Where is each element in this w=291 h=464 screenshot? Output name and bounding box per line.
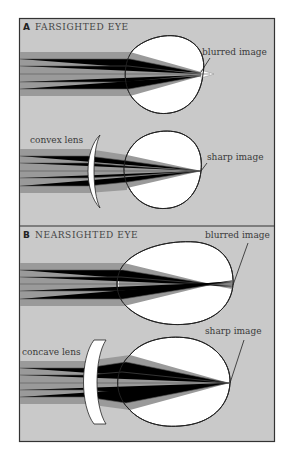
concave-lens-label: concave lens (22, 347, 81, 357)
sharp-image-label: sharp image (207, 152, 264, 162)
convex-lens-label: convex lens (30, 135, 84, 145)
panel-b-title: NEARSIGHTED EYE (35, 230, 138, 240)
panel-a-title: FARSIGHTED EYE (35, 22, 129, 32)
sharp-image-label: sharp image (205, 326, 262, 336)
blurred-image-label: blurred image (205, 230, 270, 240)
panel-a-letter: A (23, 22, 30, 32)
parallel-ray-band (20, 263, 125, 306)
blurred-image-label: blurred image (202, 47, 267, 57)
parallel-ray-band (20, 361, 88, 404)
panel-b-letter: B (23, 230, 30, 240)
eye-focus-diagram: A FARSIGHTED EYE blurred image (0, 0, 291, 464)
